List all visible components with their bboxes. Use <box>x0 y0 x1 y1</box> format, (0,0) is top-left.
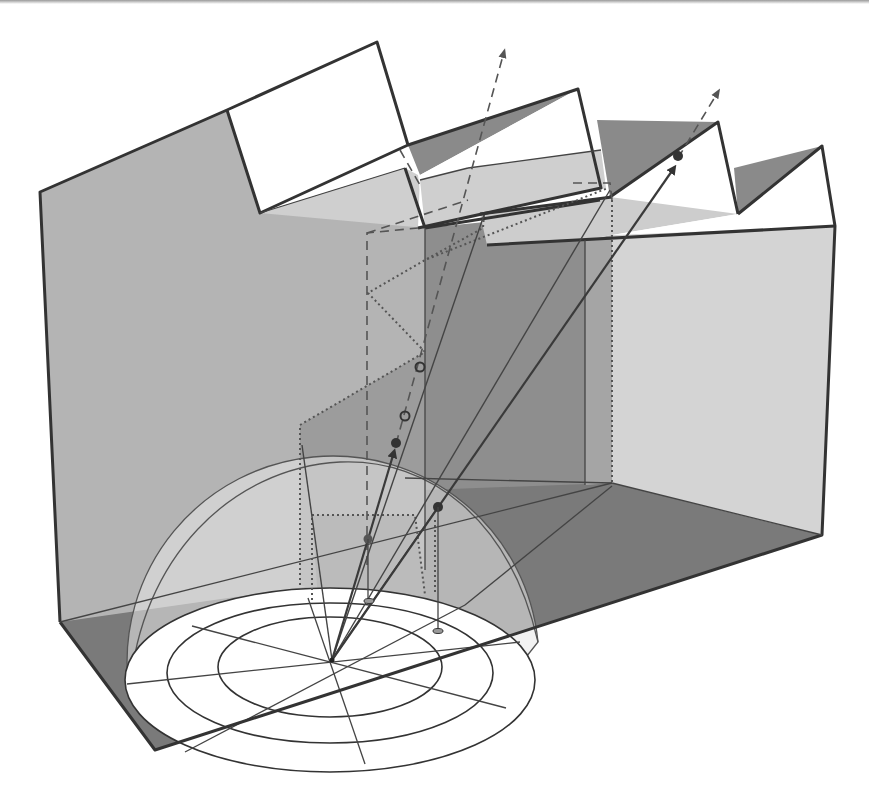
marker-upper-point <box>391 438 401 448</box>
marker-roof-point <box>673 151 683 161</box>
right-wall <box>612 226 835 535</box>
polar-grid <box>125 588 535 772</box>
inner-back-wall <box>425 212 612 490</box>
origin-point <box>330 658 335 663</box>
projection-mark-right <box>433 629 443 634</box>
projection-mark-mid <box>364 599 374 604</box>
room-daylight-diagram <box>0 0 869 798</box>
inner-column-wall <box>585 235 612 485</box>
